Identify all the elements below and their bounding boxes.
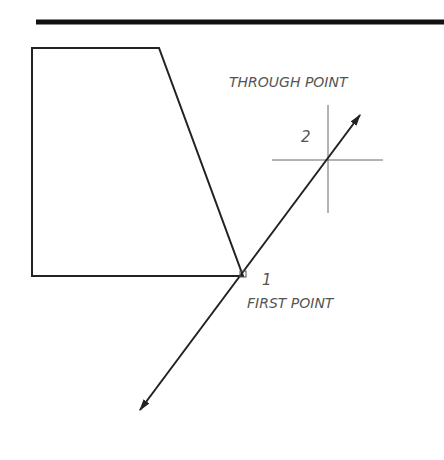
construction-ray	[140, 115, 360, 410]
existing-shape-outline	[32, 48, 243, 276]
first-point-label: FIRST POINT	[247, 295, 335, 311]
point-2-number: 2	[301, 128, 311, 146]
diagram-canvas: THROUGH POINT 2 1 FIRST POINT	[0, 0, 444, 460]
through-point-label: THROUGH POINT	[229, 74, 349, 90]
point-1-number: 1	[262, 271, 272, 289]
